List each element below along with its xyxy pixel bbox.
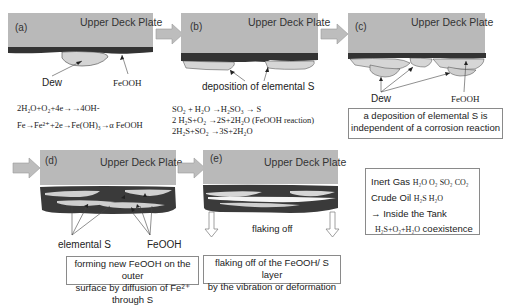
- info-line-inert-gas: Inert Gas H₂O O₂ SO₂ CO₂: [371, 174, 479, 190]
- label-flaking-off: flaking off: [252, 223, 293, 234]
- info-line-inside-tank: → Inside the Tank: [371, 206, 479, 221]
- caption-line: flaking off of the FeOOH/ S layer: [204, 257, 340, 281]
- tank-environment-box: Inert Gas H₂O O₂ SO₂ CO₂ Crude Oil H₂S H…: [365, 168, 480, 235]
- arrow-down-icon: [326, 212, 340, 238]
- info-line-coexistence: H₂S+O₂+H₂O coexistence: [371, 221, 479, 237]
- arrow-down-icon: [205, 212, 219, 238]
- caption-line: by the vibration or deformation: [204, 281, 340, 293]
- caption-box-e: flaking off of the FeOOH/ S layer by the…: [203, 255, 341, 284]
- info-line-crude-oil: Crude Oil H₂S H₂O: [371, 190, 479, 206]
